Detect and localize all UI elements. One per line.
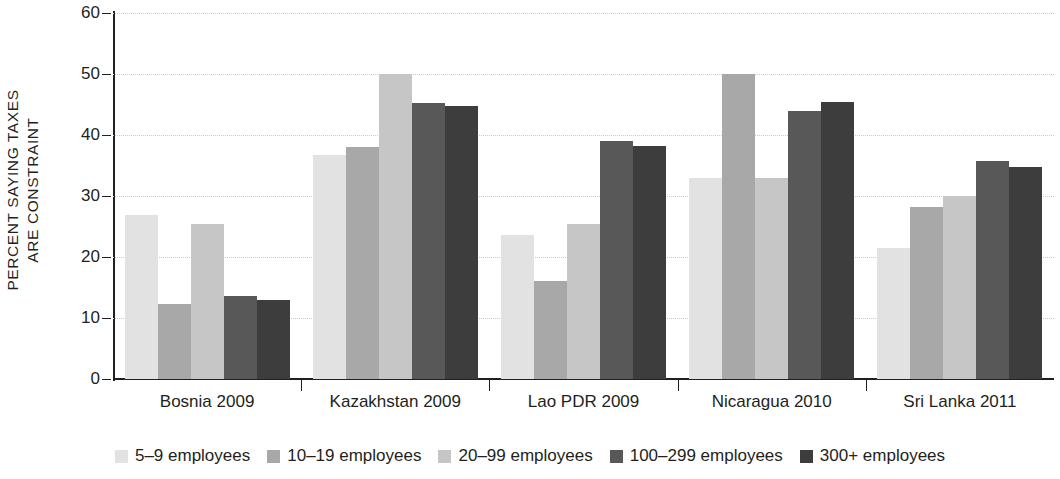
legend-item[interactable]: 300+ employees	[800, 446, 945, 466]
legend-label: 5–9 employees	[135, 446, 250, 466]
y-axis-title-line-2: ARE CONSTRAINT	[23, 89, 43, 290]
bar	[125, 215, 158, 379]
y-axis-tick-labels: 0102030405060	[44, 13, 100, 379]
legend-item[interactable]: 10–19 employees	[267, 446, 421, 466]
y-axis-tick-label: 60	[54, 3, 100, 23]
y-axis-tick	[102, 379, 111, 380]
y-axis-tick-label: 20	[54, 247, 100, 267]
bar	[445, 106, 478, 379]
y-axis-tick-label: 0	[54, 369, 100, 389]
y-axis-title-line-1: PERCENT SAYING TAXES	[4, 89, 21, 290]
x-axis-group-separator	[301, 380, 302, 391]
bar-groups	[113, 13, 1054, 379]
bar-group	[678, 13, 866, 379]
x-axis-label: Kazakhstan 2009	[301, 392, 489, 420]
x-axis-label: Bosnia 2009	[113, 392, 301, 420]
y-axis-tick	[102, 318, 111, 319]
x-axis-label: Sri Lanka 2011	[866, 392, 1054, 420]
bar	[821, 102, 854, 379]
y-axis-tick	[102, 196, 111, 197]
x-axis-group-separator	[678, 380, 679, 391]
plot-area	[113, 13, 1054, 379]
legend-label: 20–99 employees	[458, 446, 592, 466]
bar	[788, 111, 821, 379]
bar-group	[113, 13, 301, 379]
bar	[689, 178, 722, 379]
bar	[1009, 167, 1042, 379]
bar	[976, 161, 1009, 379]
y-axis-title: PERCENT SAYING TAXES ARE CONSTRAINT	[0, 0, 46, 380]
bar	[224, 296, 257, 379]
bar	[412, 103, 445, 379]
bar-group	[866, 13, 1054, 379]
bar	[633, 146, 666, 379]
y-axis-tick-label: 30	[54, 186, 100, 206]
legend-label: 10–19 employees	[287, 446, 421, 466]
bar	[755, 178, 788, 379]
legend-item[interactable]: 5–9 employees	[115, 446, 250, 466]
bar	[600, 141, 633, 380]
bar	[158, 304, 191, 379]
x-axis-group-separator	[489, 380, 490, 391]
x-axis-group-separator	[866, 380, 867, 391]
x-axis-label: Lao PDR 2009	[489, 392, 677, 420]
bar	[379, 74, 412, 379]
y-axis-tick	[102, 13, 111, 14]
legend-swatch-icon	[438, 450, 451, 463]
bar	[257, 300, 290, 379]
x-axis-label: Nicaragua 2010	[678, 392, 866, 420]
y-axis-tick	[102, 257, 111, 258]
x-axis-labels: Bosnia 2009Kazakhstan 2009Lao PDR 2009Ni…	[113, 392, 1054, 420]
bar	[534, 281, 567, 379]
y-axis-tick-label: 40	[54, 125, 100, 145]
legend-label: 300+ employees	[820, 446, 945, 466]
bar-group	[301, 13, 489, 379]
bar-group	[489, 13, 677, 379]
bar	[910, 207, 943, 379]
y-axis-tick-label: 50	[54, 64, 100, 84]
y-axis-tick	[102, 135, 111, 136]
bar	[567, 224, 600, 379]
legend-swatch-icon	[115, 450, 128, 463]
bar	[191, 224, 224, 379]
legend-item[interactable]: 100–299 employees	[610, 446, 783, 466]
bar	[722, 74, 755, 379]
bar	[313, 155, 346, 379]
bar	[877, 248, 910, 379]
bar	[501, 235, 534, 379]
legend: 5–9 employees10–19 employees20–99 employ…	[0, 446, 1060, 466]
chart-figure: PERCENT SAYING TAXES ARE CONSTRAINT 0102…	[0, 0, 1060, 479]
legend-swatch-icon	[267, 450, 280, 463]
legend-swatch-icon	[800, 450, 813, 463]
legend-swatch-icon	[610, 450, 623, 463]
bar	[346, 147, 379, 379]
y-axis-tick-label: 10	[54, 308, 100, 328]
y-axis-tick	[102, 74, 111, 75]
bar	[943, 196, 976, 379]
legend-item[interactable]: 20–99 employees	[438, 446, 592, 466]
legend-label: 100–299 employees	[630, 446, 783, 466]
